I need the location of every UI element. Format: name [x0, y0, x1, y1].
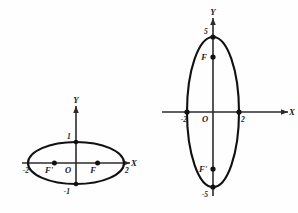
- right-origin-label: O: [202, 114, 208, 124]
- left-vertex-bottom: [74, 182, 79, 187]
- left-origin-label: O: [65, 165, 71, 175]
- right-ellipse-chart: X Y O -2 2 5 -5 F F': [162, 7, 296, 199]
- left-vertex-top: [74, 140, 79, 145]
- left-tick-pos2: 2: [124, 166, 129, 175]
- right-vertex-bottom: [210, 184, 215, 189]
- right-vertex-right: [236, 109, 241, 114]
- right-tick-pos5: 5: [204, 27, 208, 36]
- left-focus-right-label: F: [89, 165, 96, 175]
- left-tick-pos1: 1: [67, 132, 71, 141]
- right-tick-pos2: 2: [240, 115, 245, 124]
- left-tick-neg1: -1: [64, 187, 71, 196]
- right-vertex-left: [184, 109, 189, 114]
- right-focus-upper-label: F: [200, 52, 207, 62]
- left-ellipse-chart: X Y O -2 2 1 -1 F' F: [22, 95, 138, 196]
- right-focus-lower-dot: [210, 166, 215, 171]
- left-y-axis-label: Y: [73, 95, 80, 105]
- right-y-axis-label: Y: [210, 7, 217, 17]
- right-y-axis-arrow: [210, 18, 216, 25]
- right-focus-lower-label: F': [198, 164, 208, 174]
- left-tick-neg2: -2: [23, 166, 30, 175]
- right-x-axis-label: X: [288, 107, 296, 117]
- left-focus-left-label: F': [44, 165, 54, 175]
- left-x-axis-label: X: [130, 158, 138, 168]
- right-x-axis-arrow: [281, 109, 288, 115]
- left-y-axis-arrow: [73, 106, 79, 113]
- figure-canvas: X Y O -2 2 1 -1 F' F: [0, 0, 298, 213]
- right-focus-upper-dot: [210, 54, 215, 59]
- right-tick-neg2: -2: [181, 115, 188, 124]
- right-tick-neg5: -5: [202, 190, 209, 199]
- left-focus-right-dot: [95, 161, 100, 166]
- right-vertex-top: [210, 34, 215, 39]
